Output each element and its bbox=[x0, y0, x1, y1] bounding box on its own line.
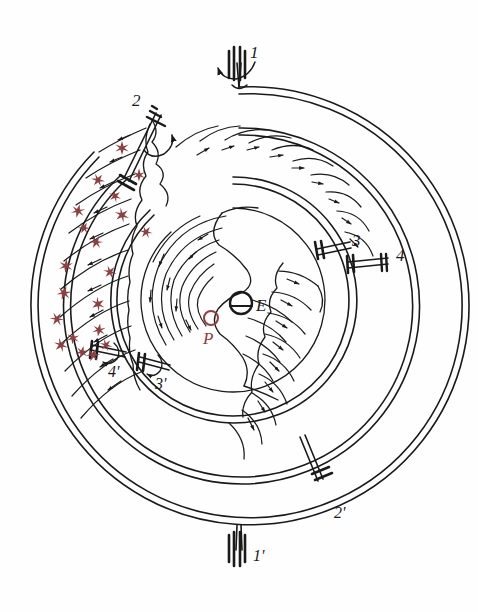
callout-label-2-prime: 2' bbox=[334, 505, 345, 521]
callout-label-3: 3 bbox=[352, 232, 361, 249]
annulus-band-divider-upper bbox=[152, 120, 168, 206]
technical-figure: 12344'3'2'1' EP bbox=[0, 0, 478, 612]
callout-label-4: 4 bbox=[396, 247, 405, 264]
callout-label-4-prime: 4' bbox=[108, 364, 119, 380]
core-lower-right-vanes bbox=[243, 300, 292, 381]
pump-circle-icon bbox=[204, 311, 218, 325]
callout-label-1: 1 bbox=[250, 44, 259, 61]
boiling-star-marker bbox=[70, 203, 86, 220]
evaporator-circle-icon bbox=[230, 292, 252, 314]
boiling-star-marker bbox=[112, 205, 132, 225]
boiling-star-marker bbox=[92, 322, 107, 337]
core-label-P: P bbox=[203, 330, 213, 347]
shaft-1 bbox=[229, 47, 247, 89]
boiling-star-marker bbox=[137, 223, 154, 240]
spoke-4 bbox=[347, 254, 388, 273]
boiling-star-marker bbox=[115, 141, 128, 155]
boiling-star-marker bbox=[84, 346, 101, 364]
core-internal-boundary bbox=[214, 207, 278, 400]
shaft-2 bbox=[118, 106, 165, 190]
boiling-star-marker bbox=[59, 258, 73, 273]
core-label-E: E bbox=[256, 297, 266, 314]
diagram-canvas bbox=[0, 0, 478, 612]
shaft-1-prime bbox=[229, 525, 245, 566]
boiling-star-field bbox=[48, 141, 155, 364]
callout-label-1-prime: 1' bbox=[253, 548, 264, 564]
ink-layer bbox=[31, 47, 469, 566]
callout-label-3-prime: 3' bbox=[155, 376, 166, 392]
inner-drum-ring bbox=[111, 177, 357, 423]
callout-label-2: 2 bbox=[132, 92, 141, 109]
shaft-2-prime bbox=[300, 435, 332, 481]
boiling-star-marker bbox=[89, 295, 107, 313]
